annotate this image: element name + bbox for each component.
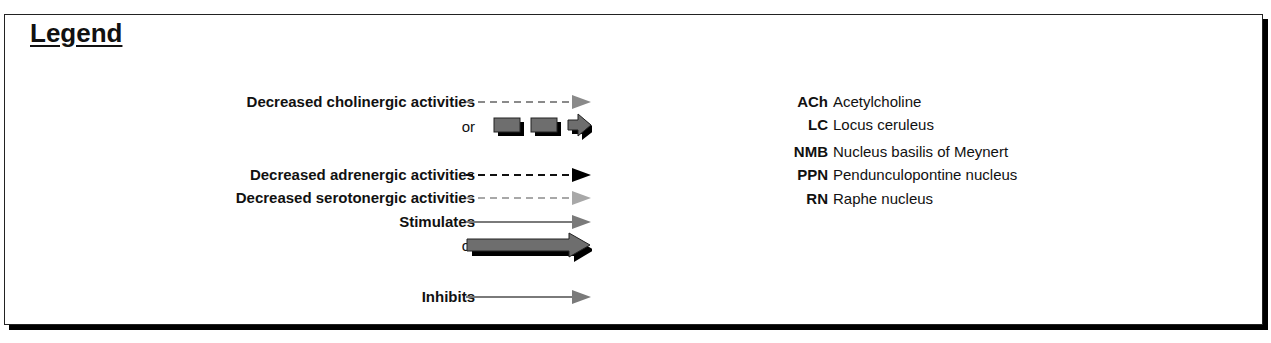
label-serotonergic: Decreased serotonergic activities: [236, 189, 475, 206]
abbreviation-key: ACh: [770, 93, 828, 110]
dashed-black-arrow-icon: [462, 163, 592, 187]
abbreviation-item: PPNPendunculopontine nucleus: [770, 166, 1017, 183]
abbreviation-key: RN: [770, 190, 828, 207]
abbreviation-key: NMB: [770, 143, 828, 160]
legend-title: Legend: [30, 18, 122, 49]
solid-gray-arrow-icon: [462, 285, 592, 309]
block-arrow-icon: [462, 230, 592, 262]
dashed-light-gray-arrow-icon: [462, 186, 592, 210]
abbreviation-meaning: Acetylcholine: [833, 93, 921, 110]
segmented-block-arrow-icon: [462, 112, 592, 142]
abbreviation-meaning: Pendunculopontine nucleus: [833, 166, 1017, 183]
label-adrenergic: Decreased adrenergic activities: [250, 166, 475, 183]
abbreviation-key: LC: [770, 116, 828, 133]
abbreviation-item: LCLocus ceruleus: [770, 116, 934, 133]
abbreviation-meaning: Raphe nucleus: [833, 190, 933, 207]
abbreviation-item: RNRaphe nucleus: [770, 190, 933, 207]
dashed-gray-arrow-icon: [462, 90, 592, 114]
abbreviation-key: PPN: [770, 166, 828, 183]
label-cholinergic: Decreased cholinergic activities: [247, 93, 475, 110]
abbreviation-item: NMBNucleus basilis of Meynert: [770, 143, 1008, 160]
abbreviation-meaning: Locus ceruleus: [833, 116, 934, 133]
legend-box: [4, 14, 1263, 325]
abbreviation-meaning: Nucleus basilis of Meynert: [833, 143, 1008, 160]
abbreviation-item: AChAcetylcholine: [770, 93, 921, 110]
